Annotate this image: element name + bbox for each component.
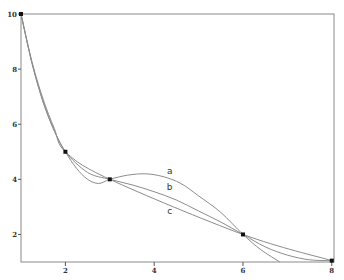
x-tick-label: 6 [241,266,246,275]
data-points [19,12,334,263]
plot-frame [21,14,334,262]
y-tick-label: 6 [12,120,17,129]
x-tick-label: 2 [63,266,68,275]
curves [21,14,332,262]
y-tick-label: 10 [7,10,17,19]
curve-labels: abc [167,166,173,216]
y-tick-label: 4 [12,175,17,184]
data-point [19,12,23,16]
curve-label-a: a [167,166,173,176]
curve-c [21,14,332,261]
axis-ticks: 2468246810 [7,10,334,276]
curve-a [21,14,280,262]
y-tick-label: 2 [12,230,17,239]
curve-b [21,14,332,261]
data-point [241,232,245,236]
data-point [330,259,334,263]
y-tick-label: 8 [12,65,17,74]
data-point [63,150,67,154]
chart: 2468246810 abc [0,0,344,280]
x-tick-label: 8 [329,266,334,275]
curve-label-c: c [167,206,172,216]
curve-label-b: b [167,182,173,192]
data-point [108,177,112,181]
x-tick-label: 4 [152,266,157,275]
